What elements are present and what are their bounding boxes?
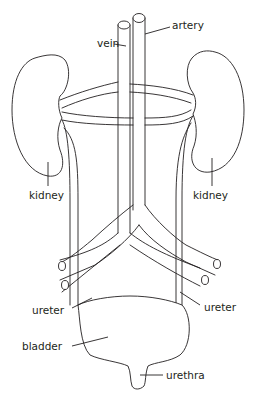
kidney-right (187, 51, 244, 172)
label-ureter-right: ureter (204, 302, 236, 313)
label-kidney-left: kidney (29, 190, 64, 201)
kidney-left (12, 55, 69, 176)
artery-vessel (133, 14, 145, 211)
label-artery: artery (172, 20, 204, 31)
vein-vessel (118, 21, 130, 233)
label-kidney-right: kidney (193, 190, 228, 201)
label-vein: vein (97, 38, 119, 49)
label-bladder: bladder (22, 341, 62, 352)
label-ureter-left: ureter (32, 305, 64, 316)
label-urethra: urethra (166, 370, 205, 381)
